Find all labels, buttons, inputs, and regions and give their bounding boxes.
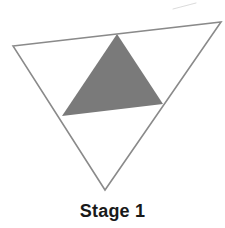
stage-caption-label: Stage 1: [0, 200, 225, 222]
fractal-diagram-canvas: [0, 0, 225, 228]
fractal-stage-figure: Stage 1: [0, 0, 225, 228]
